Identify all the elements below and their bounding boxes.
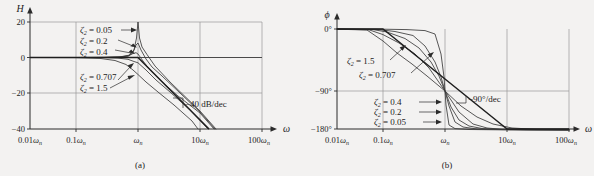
xtick-label-0p1wn: 0.1ωn — [66, 135, 86, 146]
leader-0p2 — [118, 40, 133, 46]
slope-annotation-label-b: −90°/dec — [468, 94, 501, 104]
curve-zeta-0p2 — [30, 43, 215, 129]
ytick-label-minus40: −40 — [12, 124, 25, 134]
axes-group — [27, 7, 277, 132]
xtick-label-wn: ωn — [133, 135, 142, 146]
x-axis-arrow — [271, 126, 278, 132]
xtick-label-0p01wn-b: 0.01ωn — [325, 135, 349, 146]
x-axis-label: ω — [283, 123, 290, 134]
bode-plot-figure: H ω 20 0 −20 −40 0.01ωn 0.1ωn ωn 10ωn 10… — [0, 0, 594, 176]
xtick-label-100wn-b: 100ωn — [555, 135, 577, 146]
ytick-label-20: 20 — [17, 17, 26, 27]
leader-b-0p707 — [411, 55, 431, 73]
x-axis-arrow-b — [574, 126, 581, 132]
curve-zeta-0p05 — [30, 22, 216, 129]
slope-annotation-group-b: −90°/dec — [456, 94, 501, 104]
slope-annotation-label: −40 dB/dec — [185, 99, 227, 109]
curves-group — [30, 22, 216, 129]
y-axis-label: H — [15, 3, 24, 14]
zeta-label-0p707: ζ2 = 0.707 — [80, 72, 117, 83]
arrowhead-1p5 — [128, 75, 135, 80]
zeta-labels-group-b: ζ2 = 1.5 ζ2 = 0.707 ζ2 = 0.4 ζ2 = 0.2 ζ2… — [347, 56, 406, 128]
leader-0p4 — [115, 50, 131, 53]
xtick-labels-group: 0.01ωn 0.1ωn ωn 10ωn 100ωn — [18, 135, 270, 146]
y-axis-arrow — [27, 7, 33, 14]
arrowhead-b-0p4 — [436, 100, 442, 105]
zeta-label-0p4: ζ2 = 0.4 — [80, 47, 108, 58]
phase-chart-svg: ϕ ω 0° −90° −180° 0.01ωn 0.1ωn ωn 10ωn 1… — [297, 0, 594, 176]
arrowhead-0p707 — [128, 63, 134, 69]
grid-group — [30, 22, 262, 129]
panel-caption-b: (b) — [442, 160, 453, 170]
ytick-label-minus20: −20 — [12, 88, 25, 98]
ytick-label-0: 0 — [21, 53, 25, 63]
xtick-labels-group-b: 0.01ωn 0.1ωn ωn 10ωn 100ωn — [325, 135, 577, 146]
y-axis-label-b: ϕ — [324, 9, 329, 20]
zeta-labels-group: ζ2 = 0.05 ζ2 = 0.2 ζ2 = 0.4 ζ2 = 0.707 ζ… — [80, 25, 117, 94]
xtick-label-0p01wn: 0.01ωn — [18, 135, 42, 146]
xtick-label-0p1wn-b: 0.1ωn — [373, 135, 393, 146]
xtick-label-10wn-b: 10ωn — [498, 135, 516, 146]
zeta-label-1p5: ζ2 = 1.5 — [80, 83, 108, 94]
xtick-label-10wn: 10ωn — [191, 135, 209, 146]
panel-phase: ϕ ω 0° −90° −180° 0.01ωn 0.1ωn ωn 10ωn 1… — [297, 0, 594, 176]
curve-zeta-0p4 — [30, 53, 214, 129]
zeta-label-0p05: ζ2 = 0.05 — [80, 25, 112, 36]
ytick-label-0deg: 0° — [324, 24, 332, 34]
zeta-label-b-0p707: ζ2 = 0.707 — [359, 70, 396, 81]
arrowhead-b-0p05 — [436, 120, 442, 125]
leader-b-1p5 — [390, 48, 403, 60]
ytick-label-minus180: −180° — [311, 124, 332, 134]
x-axis-label-b: ω — [585, 123, 592, 134]
panel-magnitude: H ω 20 0 −20 −40 0.01ωn 0.1ωn ωn 10ωn 10… — [0, 0, 297, 176]
ytick-label-minus90: −90° — [315, 86, 332, 96]
zeta-label-b-0p05: ζ2 = 0.05 — [374, 117, 406, 128]
y-axis-arrow-b — [334, 13, 340, 20]
panel-caption-a: (a) — [135, 160, 145, 170]
zeta-label-0p2: ζ2 = 0.2 — [80, 36, 107, 47]
slope-annotation-group: −40 dB/dec — [173, 98, 227, 109]
xtick-label-wn-b: ωn — [440, 135, 449, 146]
zeta-label-b-1p5: ζ2 = 1.5 — [347, 56, 375, 67]
arrowhead-0p05 — [131, 28, 137, 33]
arrowhead-b-0p2 — [436, 110, 442, 115]
xtick-label-100wn: 100ωn — [248, 135, 270, 146]
slope-corner-marker-b — [456, 96, 466, 103]
magnitude-chart-svg: H ω 20 0 −20 −40 0.01ωn 0.1ωn ωn 10ωn 10… — [0, 0, 297, 176]
